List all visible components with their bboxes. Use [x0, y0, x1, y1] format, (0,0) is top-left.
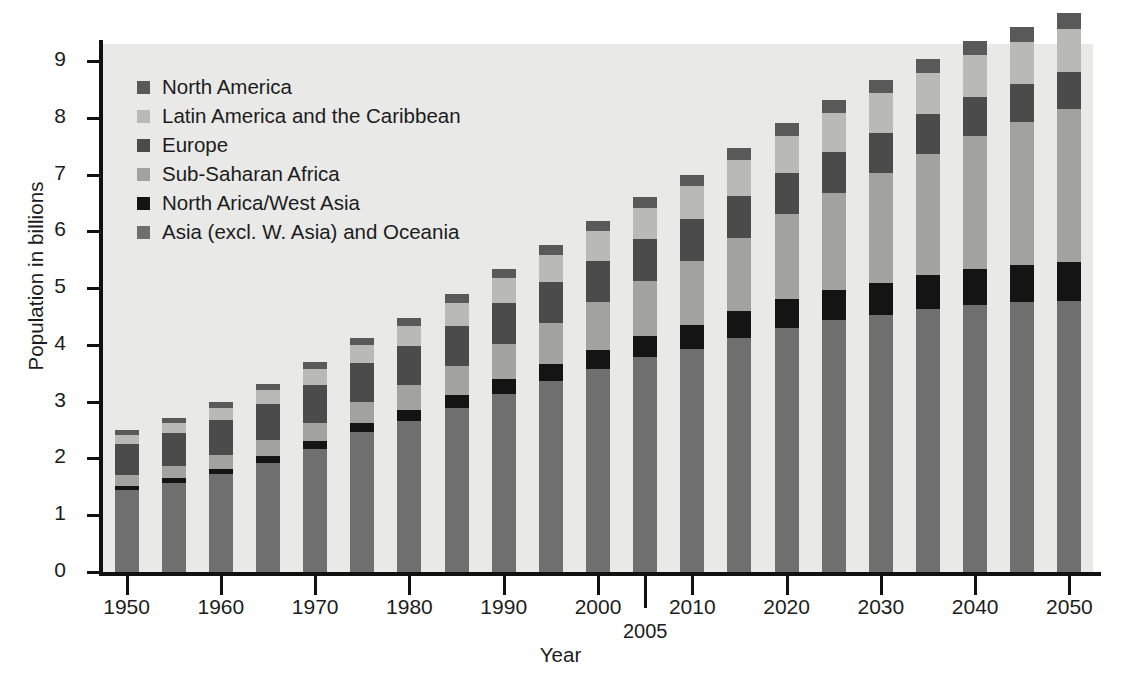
bar-segment [115, 444, 139, 475]
bar-segment [1010, 27, 1034, 42]
x-tick-1970 [314, 576, 317, 595]
y-tick-4 [87, 344, 101, 347]
bar-segment [1057, 109, 1081, 262]
bar-segment [775, 299, 799, 327]
bar-segment [1010, 122, 1034, 265]
population-stacked-bar-chart: 0123456789 19501960197019801990200020102… [0, 0, 1121, 681]
bar-segment [115, 475, 139, 485]
bar-segment [256, 440, 280, 456]
bar-segment [397, 385, 421, 410]
bar-segment [916, 275, 940, 309]
legend-label: Latin America and the Caribbean [162, 106, 461, 127]
x-tick-label-2010: 2010 [669, 595, 716, 619]
x-tick-label-1990: 1990 [480, 595, 527, 619]
x-tick-label-1960: 1960 [197, 595, 244, 619]
x-tick-label-1980: 1980 [386, 595, 433, 619]
bar-segment [1010, 302, 1034, 572]
bar-2025 [822, 44, 846, 572]
bar-segment [539, 381, 563, 572]
bar-segment [822, 152, 846, 193]
bar-segment [869, 133, 893, 173]
bar-segment [350, 423, 374, 432]
y-tick-7 [87, 174, 101, 177]
x-tick-label-2040: 2040 [952, 595, 999, 619]
x-tick-2030 [880, 576, 883, 595]
bar-segment [209, 469, 233, 475]
x-tick-2020 [786, 576, 789, 595]
y-axis-line [99, 40, 103, 576]
x-axis-line [99, 572, 1101, 576]
bar-segment [869, 93, 893, 133]
bar-segment [633, 357, 657, 572]
bar-segment [162, 466, 186, 478]
bar-segment [350, 345, 374, 363]
bar-segment [162, 418, 186, 423]
bar-segment [822, 113, 846, 152]
bar-segment [916, 59, 940, 73]
bar-segment [303, 441, 327, 449]
bar-segment [680, 349, 704, 572]
bar-segment [633, 197, 657, 208]
bar-segment [633, 336, 657, 358]
x-tick-2010 [691, 576, 694, 595]
bar-segment [209, 420, 233, 455]
bar-segment [775, 328, 799, 572]
bar-segment [397, 326, 421, 346]
bar-segment [209, 455, 233, 469]
bar-2035 [916, 44, 940, 572]
bar-segment [1057, 13, 1081, 29]
bar-2000 [586, 44, 610, 572]
bar-segment [539, 323, 563, 364]
bar-segment [586, 350, 610, 369]
bar-segment [963, 305, 987, 572]
bar-segment [1057, 72, 1081, 109]
legend-swatch-icon [137, 81, 150, 94]
y-tick-label-1: 1 [26, 501, 66, 525]
bar-segment [586, 231, 610, 261]
bar-segment [822, 193, 846, 290]
bar-segment [586, 369, 610, 572]
bar-segment [775, 123, 799, 135]
bar-segment [256, 404, 280, 440]
bar-segment [775, 173, 799, 214]
bar-segment [209, 402, 233, 408]
bar-2005 [633, 44, 657, 572]
x-tick-1990 [503, 576, 506, 595]
bar-segment [1057, 301, 1081, 572]
legend-label: Asia (excl. W. Asia) and Oceania [162, 222, 459, 243]
x-tick-2040 [974, 576, 977, 595]
bar-segment [680, 175, 704, 186]
x-axis-title: Year [0, 643, 1121, 667]
bar-segment [397, 421, 421, 572]
bar-segment [256, 456, 280, 463]
bar-segment [1057, 262, 1081, 301]
bar-segment [162, 478, 186, 483]
bar-segment [916, 154, 940, 275]
legend-item: Europe [137, 131, 557, 160]
x-tick-2000 [597, 576, 600, 595]
bar-segment [633, 239, 657, 280]
x-tick-1980 [408, 576, 411, 595]
y-tick-8 [87, 117, 101, 120]
bar-segment [162, 433, 186, 466]
bar-segment [727, 311, 751, 337]
bar-segment [350, 432, 374, 572]
bar-segment [303, 385, 327, 422]
bar-segment [869, 173, 893, 283]
legend-item: Sub-Saharan Africa [137, 160, 557, 189]
bar-segment [822, 100, 846, 113]
bar-1950 [115, 44, 139, 572]
legend-label: North Arica/West Asia [162, 193, 360, 214]
bar-segment [256, 463, 280, 572]
bar-segment [445, 366, 469, 396]
bar-segment [539, 282, 563, 323]
bar-segment [727, 148, 751, 160]
bar-segment [539, 255, 563, 282]
bar-segment [303, 362, 327, 369]
y-tick-1 [87, 514, 101, 517]
bar-segment [869, 80, 893, 94]
bar-segment [1010, 42, 1034, 84]
chart-legend: North AmericaLatin America and the Carib… [137, 73, 557, 247]
x-tick-1950 [126, 576, 129, 595]
legend-label: Europe [162, 135, 228, 156]
